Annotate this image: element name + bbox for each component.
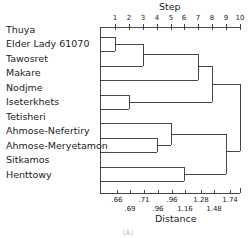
dendrogram-graphic bbox=[0, 0, 250, 238]
merge-step-9 bbox=[171, 134, 226, 174]
merge-step-3 bbox=[100, 44, 143, 66]
merge-step-4 bbox=[100, 138, 157, 152]
merge-step-7 bbox=[100, 54, 198, 80]
merge-step-2 bbox=[100, 95, 129, 109]
merge-step-8 bbox=[129, 66, 212, 102]
merge-step-5 bbox=[100, 123, 171, 145]
merge-step-6 bbox=[100, 167, 184, 181]
distance-ticks bbox=[117, 188, 240, 193]
merge-step-1 bbox=[100, 37, 115, 51]
